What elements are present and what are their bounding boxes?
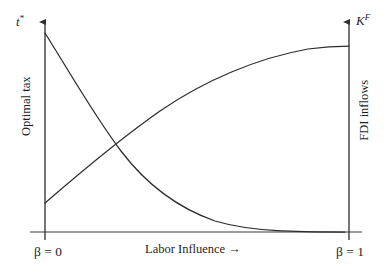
y-axis-right-symbol-superscript: F	[365, 12, 371, 22]
x-axis-title: Labor Influence →	[145, 243, 241, 256]
chart-figure: t* KF Optimal tax FDI inflows Labor Infl…	[0, 0, 388, 272]
x-tick-label-beta-zero: β = 0	[34, 245, 62, 259]
y-axis-left-title: Optimal tax	[20, 58, 33, 154]
y-axis-right-title: FDI inflows	[358, 62, 371, 158]
y-axis-left-symbol: t*	[16, 14, 24, 28]
y-axis-right-symbol-base: K	[356, 13, 365, 28]
curve-optimal-tax	[45, 33, 345, 232]
curve-fdi-inflows	[45, 46, 349, 203]
y-axis-left-symbol-superscript: *	[20, 13, 25, 23]
y-axis-right-symbol: KF	[356, 13, 370, 27]
x-tick-label-beta-one: β = 1	[336, 245, 364, 259]
chart-plot-area	[0, 0, 388, 272]
